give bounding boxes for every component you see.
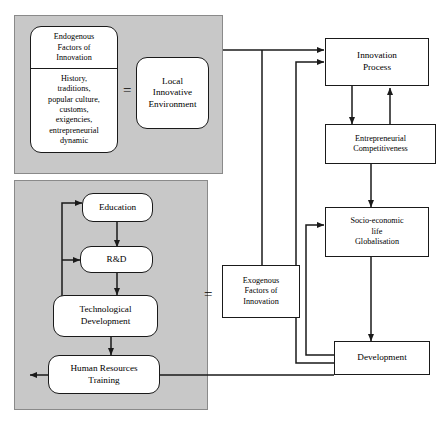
development-label: Development [357, 352, 407, 364]
human-resources-training-box[interactable]: Human Resources Training [48, 355, 160, 394]
rnd-box[interactable]: R&D [80, 246, 153, 273]
innovation-process-box[interactable]: Innovation Process [325, 38, 429, 86]
endogenous-factors-title: Endogenous Factors of Innovation [31, 28, 117, 68]
local-env-line-3: Environment [149, 99, 197, 111]
local-innovative-environment-box[interactable]: Local Innovative Environment [136, 57, 209, 129]
endogenous-title-line-2: Factors of [34, 43, 114, 53]
equals-sign-endogenous: = [123, 83, 131, 98]
endogenous-body-line-1: History, [34, 74, 114, 84]
endogenous-title-line-1: Endogenous [34, 32, 114, 42]
education-label: Education [99, 202, 136, 214]
exogenous-factors-box[interactable]: Exogenous Factors of Innovation [222, 265, 300, 318]
endogenous-body-line-4: customs, [34, 105, 114, 115]
socio-economic-globalisation-box[interactable]: Socio-economic life Globalisation [325, 207, 429, 257]
endogenous-body-line-7: dynamic [34, 136, 114, 146]
endogenous-factors-box[interactable]: Endogenous Factors of Innovation History… [30, 26, 118, 153]
endogenous-factors-body: History, traditions, popular culture, cu… [31, 69, 117, 151]
socio-economic-line-3: Globalisation [355, 237, 399, 247]
equals-sign-exogenous: = [204, 287, 212, 302]
innovation-process-line-2: Process [363, 62, 391, 74]
local-env-line-2: Innovative [153, 87, 192, 99]
endogenous-body-line-2: traditions, [34, 84, 114, 94]
techdev-line-1: Technological [80, 304, 132, 316]
education-box[interactable]: Education [82, 193, 153, 222]
human-resources-line-1: Human Resources [70, 363, 137, 375]
techdev-line-2: Development [81, 316, 131, 328]
diagram-canvas: Endogenous Factors of Innovation History… [0, 0, 444, 424]
development-box[interactable]: Development [334, 341, 430, 375]
exogenous-line-1: Exogenous [243, 276, 279, 286]
entrepreneurial-competitiveness-box[interactable]: Entrepreneurial Competitiveness [325, 124, 436, 164]
human-resources-line-2: Training [88, 375, 119, 387]
innovation-process-line-1: Innovation [357, 50, 397, 62]
entrepreneurial-line-1: Entrepreneurial [355, 134, 406, 144]
endogenous-body-line-3: popular culture, [34, 95, 114, 105]
socio-economic-line-2: life [372, 227, 383, 237]
local-env-line-1: Local [162, 76, 183, 88]
endogenous-body-line-6: entrepreneurial [34, 126, 114, 136]
rnd-label: R&D [107, 254, 127, 266]
endogenous-title-line-3: Innovation [34, 53, 114, 63]
technological-development-box[interactable]: Technological Development [53, 295, 158, 337]
entrepreneurial-line-2: Competitiveness [353, 144, 408, 154]
socio-economic-line-1: Socio-economic [350, 216, 403, 226]
endogenous-body-line-5: exigencies, [34, 115, 114, 125]
exogenous-line-2: Factors of [245, 286, 278, 296]
exogenous-line-3: Innovation [243, 297, 278, 307]
